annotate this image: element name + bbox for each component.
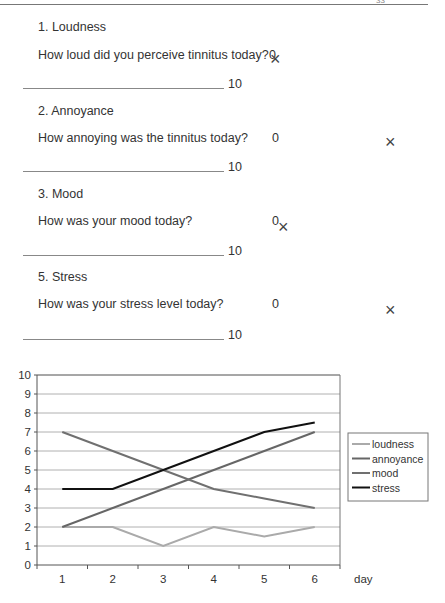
y-tick-label: 6: [25, 445, 31, 457]
question-text-annoyance: How annoying was the tinnitus today?: [38, 131, 248, 145]
question-title-loudness: 1. Loudness: [38, 20, 106, 34]
scale-line-loudness: [23, 88, 224, 89]
legend-label-loudness: loudness: [372, 438, 414, 450]
answer-mark-mood: ×: [278, 218, 289, 236]
line-chart: 012345678910123456dayloudnessannoyancemo…: [0, 363, 445, 603]
scale-min-stress: 0: [272, 297, 279, 311]
y-tick-label: 1: [25, 540, 31, 552]
scale-line-mood: [23, 255, 224, 256]
y-tick-label: 2: [25, 521, 31, 533]
x-axis-label: day: [354, 573, 373, 585]
scale-min-annoyance: 0: [272, 131, 279, 145]
question-text-stress: How was your stress level today?: [38, 297, 224, 311]
x-tick-label: 1: [59, 573, 65, 585]
question-title-annoyance: 2. Annoyance: [38, 104, 114, 118]
y-tick-label: 10: [18, 369, 31, 381]
legend-label-stress: stress: [372, 482, 400, 494]
y-tick-label: 0: [25, 559, 31, 571]
answer-mark-loudness: ×: [270, 50, 281, 68]
page-number: 33: [376, 0, 385, 5]
scale-max-mood: 10: [228, 244, 242, 258]
scale-max-loudness: 10: [228, 77, 242, 91]
scale-line-annoyance: [23, 171, 224, 172]
header-rule: [0, 4, 428, 5]
y-tick-label: 3: [25, 502, 31, 514]
x-tick-label: 6: [312, 573, 318, 585]
y-tick-label: 5: [25, 464, 31, 476]
answer-mark-annoyance: ×: [385, 133, 396, 151]
y-tick-label: 7: [25, 426, 31, 438]
legend-label-mood: mood: [372, 467, 398, 479]
series-line-loudness: [62, 527, 315, 546]
x-tick-label: 2: [110, 573, 116, 585]
legend-label-annoyance: annoyance: [372, 453, 424, 465]
y-tick-label: 9: [25, 388, 31, 400]
scale-line-stress: [23, 339, 224, 340]
scale-max-stress: 10: [228, 328, 242, 342]
question-text-loudness: How loud did you perceive tinnitus today…: [38, 48, 269, 62]
x-tick-label: 5: [261, 573, 267, 585]
x-tick-label: 3: [160, 573, 166, 585]
y-tick-label: 4: [25, 483, 32, 495]
answer-mark-stress: ×: [385, 301, 396, 319]
question-text-mood: How was your mood today?: [38, 214, 192, 228]
scale-max-annoyance: 10: [228, 160, 242, 174]
y-tick-label: 8: [25, 407, 31, 419]
question-title-stress: 5. Stress: [38, 270, 87, 284]
question-title-mood: 3. Mood: [38, 187, 83, 201]
x-tick-label: 4: [211, 573, 218, 585]
